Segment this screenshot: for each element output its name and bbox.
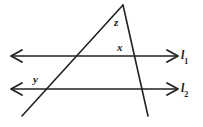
line-label-l2: l2 [181, 82, 188, 97]
line-label-l2-subscript: 2 [184, 90, 188, 99]
line-label-l1-subscript: 1 [184, 57, 188, 66]
transversal-right-line [123, 5, 148, 116]
line-label-l1: l1 [181, 49, 188, 64]
transversal-left-line [22, 5, 123, 116]
angle-label-z: z [114, 17, 118, 28]
angle-label-x: x [117, 42, 123, 53]
geometry-figure: z x y l1 l2 [0, 0, 203, 127]
geometry-canvas [0, 0, 203, 127]
angle-label-y: y [33, 74, 38, 85]
